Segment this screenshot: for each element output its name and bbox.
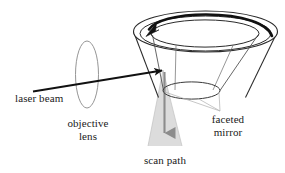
cone-base-ellipse [163,82,220,99]
label-objective-line2: lens [79,130,97,143]
label-objective-line1: objective [67,117,108,130]
facet-leader-lines [165,92,220,111]
label-faceted-line2: mirror [214,126,243,139]
facet-leader-3 [219,93,220,112]
rim-inner-ellipse [151,20,259,47]
diagram-vector-layer [0,0,285,173]
label-faceted-line1: faceted [212,113,244,126]
label-scan-path: scan path [144,154,186,167]
label-laser-beam: laser beam [15,92,63,105]
figure-canvas: laser beam objective lens faceted mirror… [0,0,285,173]
scan-path-cone [148,70,182,146]
facet-leader-1 [165,92,220,111]
objective-lens-ellipse [76,41,99,108]
